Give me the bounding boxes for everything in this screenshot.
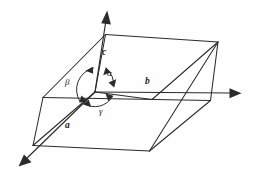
axis-label-a: a [65, 120, 70, 130]
edge-top-back [106, 35, 219, 43]
axis-a-arrowhead [19, 155, 32, 167]
axis-b-arrowhead [230, 88, 242, 98]
edge-diagonal-front-right [150, 42, 219, 151]
edge-base-right-vertical [150, 101, 211, 152]
angle-label-gamma: γ [99, 106, 103, 116]
edge-top-right [152, 42, 218, 100]
axis-c-arrowhead [101, 11, 111, 25]
angle-label-alpha: α [107, 68, 112, 78]
labels-group: c b a α β γ [64, 47, 150, 130]
angle-alpha-arrowhead-bottom [109, 79, 117, 87]
unit-cell-diagram-canvas: c b a α β γ [0, 0, 257, 177]
edge-right-vertical [211, 42, 219, 101]
edge-base-front [33, 146, 150, 152]
angle-label-beta: β [64, 77, 70, 87]
axis-label-c: c [102, 47, 107, 57]
angle-beta-arrowhead-top [86, 67, 94, 74]
unit-cell-figure: c b a α β γ [0, 0, 257, 177]
edge-base-back [43, 98, 211, 101]
axis-a-line [25, 92, 95, 160]
axis-label-b: b [145, 76, 150, 86]
